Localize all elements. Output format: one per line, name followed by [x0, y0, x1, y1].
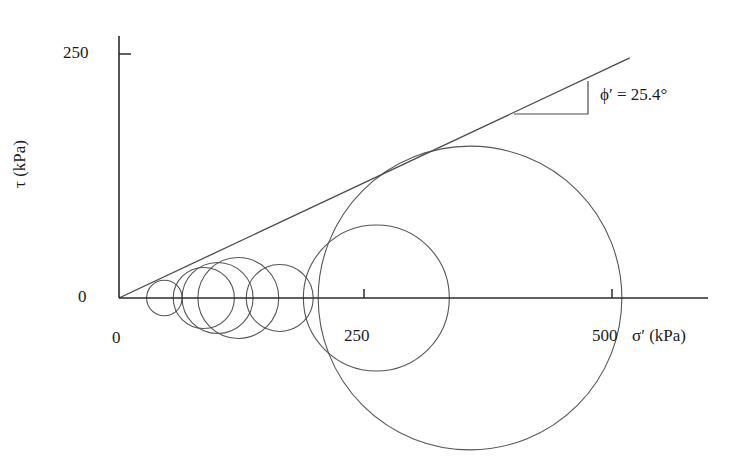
mohr-circle-figure [0, 0, 734, 473]
x-tick-label-500: 500 [592, 326, 618, 346]
x-axis-title: σ′ (kPa) [632, 326, 686, 346]
phi-angle-triangle [514, 81, 588, 114]
y-axis-title: τ (kPa) [10, 119, 30, 209]
failure-envelope-line [119, 58, 630, 298]
x-tick-label-0: 0 [112, 328, 121, 348]
friction-angle-label: ϕ′ = 25.4° [600, 85, 667, 105]
y-tick-label-250: 250 [63, 43, 89, 63]
y-tick-label-0: 0 [78, 287, 87, 307]
x-tick-label-250: 250 [344, 326, 370, 346]
